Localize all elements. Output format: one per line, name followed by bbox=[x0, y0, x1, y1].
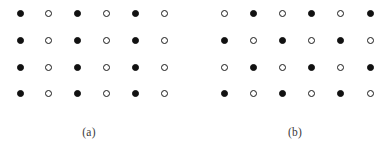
open-circle-marker bbox=[250, 37, 257, 44]
filled-circle-marker bbox=[221, 37, 228, 44]
open-circle-marker bbox=[103, 64, 110, 71]
open-circle-marker bbox=[103, 90, 110, 97]
filled-circle-marker bbox=[17, 37, 24, 44]
open-circle-marker bbox=[221, 64, 228, 71]
filled-circle-marker bbox=[337, 37, 344, 44]
filled-circle-marker bbox=[132, 37, 139, 44]
filled-circle-marker bbox=[132, 10, 139, 17]
open-circle-marker bbox=[45, 37, 52, 44]
open-circle-marker bbox=[161, 10, 168, 17]
figure-canvas: (a)(b) bbox=[0, 0, 388, 151]
filled-circle-marker bbox=[337, 90, 344, 97]
filled-circle-marker bbox=[221, 90, 228, 97]
filled-circle-marker bbox=[279, 90, 286, 97]
filled-circle-marker bbox=[17, 90, 24, 97]
open-circle-marker bbox=[161, 37, 168, 44]
filled-circle-marker bbox=[17, 64, 24, 71]
filled-circle-marker bbox=[74, 37, 81, 44]
filled-circle-marker bbox=[308, 10, 315, 17]
filled-circle-marker bbox=[279, 37, 286, 44]
open-circle-marker bbox=[161, 90, 168, 97]
filled-circle-marker bbox=[308, 64, 315, 71]
filled-circle-marker bbox=[74, 10, 81, 17]
open-circle-marker bbox=[337, 10, 344, 17]
open-circle-marker bbox=[337, 64, 344, 71]
open-circle-marker bbox=[161, 64, 168, 71]
filled-circle-marker bbox=[367, 10, 374, 17]
panel-caption-b: (b) bbox=[255, 126, 335, 139]
filled-circle-marker bbox=[17, 10, 24, 17]
panel-caption-a: (a) bbox=[49, 126, 129, 139]
open-circle-marker bbox=[45, 64, 52, 71]
open-circle-marker bbox=[45, 90, 52, 97]
filled-circle-marker bbox=[74, 64, 81, 71]
open-circle-marker bbox=[221, 10, 228, 17]
open-circle-marker bbox=[367, 37, 374, 44]
filled-circle-marker bbox=[132, 90, 139, 97]
open-circle-marker bbox=[279, 64, 286, 71]
filled-circle-marker bbox=[74, 90, 81, 97]
filled-circle-marker bbox=[250, 64, 257, 71]
open-circle-marker bbox=[250, 90, 257, 97]
open-circle-marker bbox=[103, 37, 110, 44]
open-circle-marker bbox=[308, 90, 315, 97]
open-circle-marker bbox=[279, 10, 286, 17]
open-circle-marker bbox=[103, 10, 110, 17]
open-circle-marker bbox=[45, 10, 52, 17]
filled-circle-marker bbox=[250, 10, 257, 17]
filled-circle-marker bbox=[367, 64, 374, 71]
filled-circle-marker bbox=[132, 64, 139, 71]
open-circle-marker bbox=[367, 90, 374, 97]
open-circle-marker bbox=[308, 37, 315, 44]
